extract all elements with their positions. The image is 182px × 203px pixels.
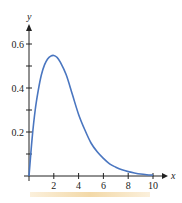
y-tick-label: 0.6 [12,39,25,50]
y-axis-label: y [26,11,32,22]
data-curve [29,55,153,176]
chart: 246810 0.20.40.6 x y [0,0,182,203]
x-tick-label: 8 [126,180,131,191]
x-tick-label: 2 [51,180,56,191]
x-tick-label: 6 [101,180,106,191]
x-axis-arrow-icon [162,173,168,179]
decorative-strip [30,192,150,197]
y-axis-arrow-icon [26,24,32,31]
axes [24,24,168,181]
x-axis-label: x [170,170,176,181]
x-tick-label: 4 [76,180,81,191]
y-tick-label: 0.2 [12,127,25,138]
x-tick-label: 10 [148,180,158,191]
y-tick-label: 0.4 [12,83,25,94]
